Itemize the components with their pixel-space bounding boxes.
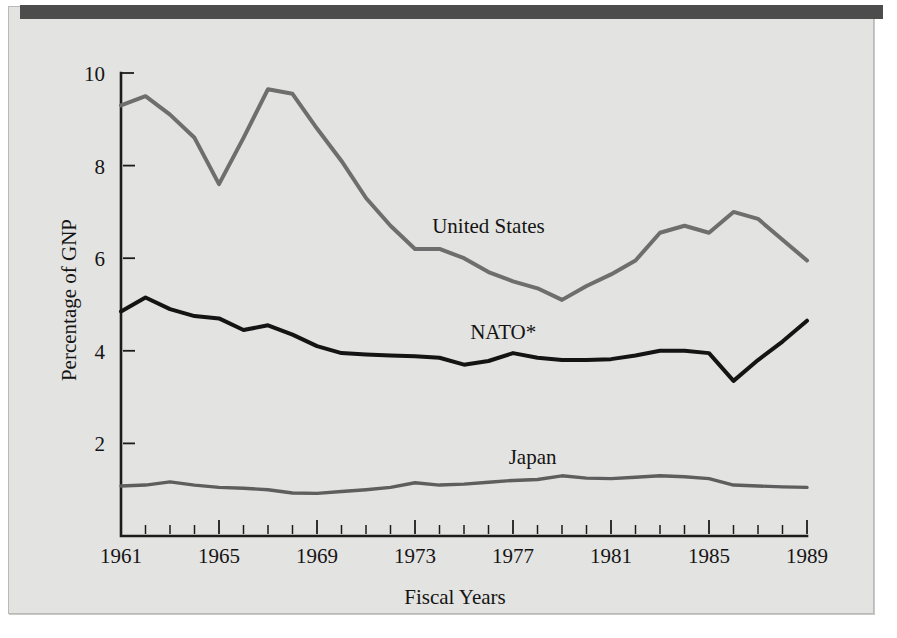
series-line-united-states	[121, 89, 807, 300]
chart-svg: 24681019611965196919731977198119851989 U…	[0, 0, 897, 638]
axis-spine	[121, 73, 807, 536]
y-tick-label: 6	[95, 247, 106, 271]
y-tick-label: 2	[95, 432, 106, 456]
y-tick-label: 4	[95, 340, 106, 364]
x-tick-label: 1977	[492, 544, 534, 568]
series-line-nato	[121, 298, 807, 381]
x-tick-label: 1989	[786, 544, 828, 568]
series-line-japan	[121, 476, 807, 494]
x-tick-label: 1965	[198, 544, 240, 568]
x-axis-title: Fiscal Years	[404, 585, 506, 609]
x-tick-label: 1981	[590, 544, 632, 568]
y-tick-label: 8	[95, 155, 106, 179]
figure-container: 24681019611965196919731977198119851989 U…	[0, 0, 897, 638]
data-series-group	[121, 89, 807, 493]
series-label-united-states: United States	[432, 214, 545, 238]
y-tick-label: 10	[84, 62, 105, 86]
series-label-japan: Japan	[509, 445, 557, 469]
x-tick-label: 1961	[100, 544, 142, 568]
chart-axes	[121, 73, 807, 536]
x-tick-label: 1973	[394, 544, 436, 568]
x-tick-label: 1985	[688, 544, 730, 568]
x-tick-label: 1969	[296, 544, 338, 568]
line-chart: 24681019611965196919731977198119851989 U…	[0, 0, 897, 638]
series-label-nato: NATO*	[470, 320, 536, 344]
y-axis-title: Percentage of GNP	[57, 219, 81, 381]
